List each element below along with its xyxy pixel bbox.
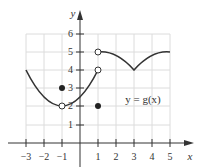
- x-tick-label: −3: [21, 151, 32, 162]
- x-tick-label: 3: [132, 151, 137, 162]
- closed-point: [59, 85, 65, 91]
- open-point: [95, 49, 101, 55]
- y-tick-label: 3: [68, 82, 73, 93]
- x-tick-label: −2: [39, 151, 50, 162]
- y-axis-label: y: [70, 7, 76, 19]
- graph: −3 −2 −1 1 2 3 4 5 x 1 2 3 4 5 6 y y = g…: [0, 0, 206, 167]
- y-axis-arrow-icon: [77, 10, 83, 20]
- function-label: y = g(x): [125, 93, 161, 106]
- open-point: [95, 67, 101, 73]
- y-tick-label: 6: [68, 28, 73, 39]
- x-tick-label: −1: [57, 151, 68, 162]
- y-tick-label: 1: [68, 119, 73, 130]
- x-axis-label: x: [187, 150, 193, 162]
- y-tick-label: 4: [68, 64, 73, 75]
- closed-point: [95, 103, 101, 109]
- x-tick-label: 5: [168, 151, 173, 162]
- open-point: [59, 103, 65, 109]
- y-tick-labels: 1 2 3 4 5 6: [68, 28, 73, 130]
- x-tick-labels: −3 −2 −1 1 2 3 4 5: [21, 151, 173, 162]
- x-axis-arrow-icon: [184, 140, 194, 146]
- y-tick-label: 5: [68, 46, 73, 57]
- x-tick-label: 1: [96, 151, 101, 162]
- x-tick-label: 2: [114, 151, 119, 162]
- x-tick-label: 4: [150, 151, 155, 162]
